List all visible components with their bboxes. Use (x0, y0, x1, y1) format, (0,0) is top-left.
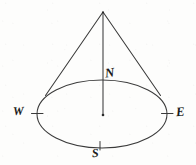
cone-diagram-drawing (0, 0, 196, 165)
apex-point-marker (102, 11, 104, 13)
direction-label-south: S (91, 147, 99, 160)
direction-label-north: N (104, 65, 115, 79)
direction-label-east: E (176, 105, 186, 119)
cone-diagram-canvas: N W E S (0, 0, 196, 165)
cone-base-ellipse (37, 80, 167, 148)
direction-label-west: W (13, 105, 24, 118)
base-center-point-marker (102, 114, 105, 117)
cone-right-slant-line (103, 12, 161, 96)
